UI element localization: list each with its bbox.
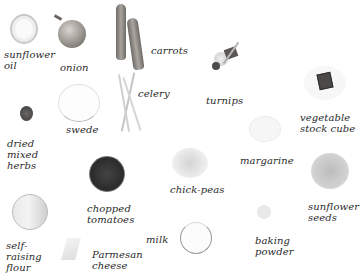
self-raising-flour-image [12,194,48,230]
parmesan-cheese-image [61,238,81,260]
label-swede: swede [66,124,98,135]
label-sunflower-seeds: sunflower seeds [308,201,359,223]
chick-peas-image [172,148,208,178]
carrot-image-1 [116,4,126,60]
sunflower-seeds-image [311,153,349,189]
label-baking-powder: baking powder [255,235,294,257]
label-dried-mixed-herbs: dried mixed herbs [7,138,38,171]
label-carrots: carrots [151,45,188,56]
milk-image [180,222,212,254]
swede-image [58,84,100,122]
label-celery: celery [138,88,170,99]
label-onion: onion [60,62,89,73]
label-chopped-tomatoes: chopped tomatoes [87,203,134,225]
carrot-image-2 [126,17,144,70]
onion-stem-image [54,14,62,21]
label-sunflower-oil: sunflower oil [4,49,55,71]
sunflower-oil-image [10,14,38,44]
label-vegetable-stock-cube: vegetable stock cube [300,112,355,134]
label-chick-peas: chick-peas [170,184,225,195]
label-milk: milk [146,234,168,245]
celery-image [115,72,145,132]
chopped-tomatoes-image [89,156,125,192]
label-parmesan-cheese: Parmesan cheese [92,249,143,271]
turnips-image [212,40,246,70]
stock-cube-image [316,72,333,91]
margarine-image [249,116,281,142]
dried-mixed-herbs-image [20,106,33,121]
label-self-raising-flour: self- raising flour [6,240,42,273]
baking-powder-image [257,205,271,219]
label-turnips: turnips [206,95,243,106]
onion-image [58,20,86,48]
label-margarine: margarine [240,155,294,166]
